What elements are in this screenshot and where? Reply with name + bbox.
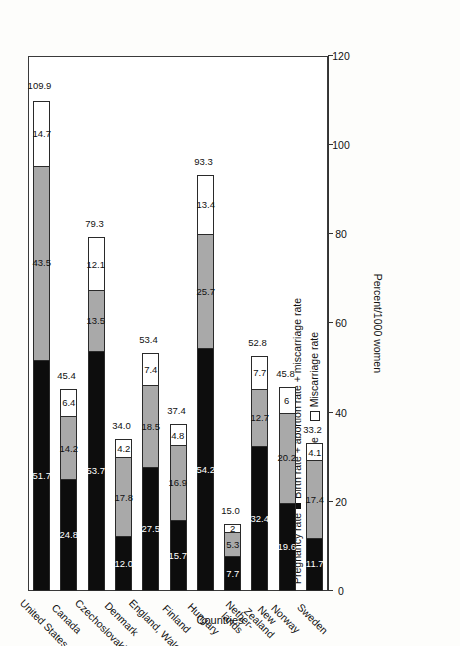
- category-label: Denmark: [116, 594, 127, 644]
- bar-segment-miscarriage[interactable]: 4.2: [115, 439, 132, 458]
- bar-total-label: 45.4: [61, 366, 72, 385]
- bar-total-label: 52.8: [252, 333, 263, 352]
- axis-tick-label: 0: [335, 579, 347, 603]
- bar-value-label: 18.5: [141, 422, 160, 432]
- bar-value-label: 4.2: [117, 444, 130, 454]
- bar-row[interactable]: 11.717.44.1: [306, 443, 323, 591]
- bar-value-label: 13.5: [87, 316, 106, 326]
- bar-row[interactable]: 53.713.512.1: [88, 237, 105, 591]
- bar-total-label: 34.0: [116, 417, 127, 436]
- bar-row[interactable]: 19.620.26: [279, 387, 296, 591]
- bar-value-label: 7.7: [253, 368, 266, 378]
- bar-value-label: 14.7: [32, 129, 51, 139]
- bar-segment-birth[interactable]: 53.7: [88, 352, 105, 591]
- bar-value-label: 5.3: [226, 540, 239, 550]
- bar-value-label: 4.1: [308, 447, 321, 457]
- bar-segment-abortion[interactable]: 5.3: [224, 533, 241, 557]
- bar-value-label: 53.7: [87, 466, 106, 476]
- bar-segment-miscarriage[interactable]: 13.4: [197, 175, 214, 235]
- bar-value-label: 12.0: [114, 559, 133, 569]
- bar-segment-miscarriage[interactable]: 4.1: [306, 443, 323, 461]
- bar-value-label: 2: [230, 524, 235, 534]
- bar-value-label: 6.4: [62, 398, 75, 408]
- bar-segment-birth[interactable]: 32.4: [251, 447, 268, 591]
- bar-segment-miscarriage[interactable]: 7.4: [142, 353, 159, 386]
- bar-value-label: 12.7: [251, 413, 270, 423]
- category-label: United States: [34, 594, 45, 644]
- bar-segment-miscarriage[interactable]: 7.7: [251, 356, 268, 390]
- value-axis: 120100806040200: [328, 56, 329, 591]
- category-label: Czechoslovakia: [89, 594, 100, 644]
- bar-segment-birth[interactable]: 19.6: [279, 504, 296, 591]
- bar-value-label: 27.5: [141, 524, 160, 534]
- bar-segment-abortion[interactable]: 25.7: [197, 235, 214, 350]
- bar-total-label: 37.4: [171, 402, 182, 421]
- bar-segment-miscarriage[interactable]: 12.1: [88, 237, 105, 291]
- bar-row[interactable]: 12.017.84.2: [115, 439, 132, 591]
- bar-segment-birth[interactable]: 27.5: [142, 468, 159, 591]
- axis-tick-label: 100: [335, 133, 347, 157]
- bar-segment-abortion[interactable]: 13.5: [88, 291, 105, 351]
- bar-segment-miscarriage[interactable]: 6: [279, 387, 296, 414]
- bar-segment-abortion[interactable]: 12.7: [251, 390, 268, 447]
- category-label: Finland: [171, 594, 182, 644]
- bar-segment-abortion[interactable]: 16.9: [170, 446, 187, 521]
- axis-tick-label: 120: [335, 44, 347, 68]
- bar-total-label: 53.4: [143, 330, 154, 349]
- bar-value-label: 51.7: [32, 471, 51, 481]
- axis-tick-label: 40: [335, 401, 347, 425]
- bar-value-label: 14.2: [60, 444, 79, 454]
- category-label: Hungary: [198, 594, 209, 644]
- axis-tick-label: 60: [335, 312, 347, 336]
- bar-series-area: 51.743.514.7109.924.814.26.445.453.713.5…: [28, 56, 328, 591]
- bar-segment-birth[interactable]: 24.8: [60, 480, 77, 591]
- bar-value-label: 6: [284, 395, 289, 405]
- bar-value-label: 11.7: [305, 560, 323, 570]
- category-label: Canada: [61, 594, 72, 644]
- axis-tick-label: 80: [335, 222, 347, 246]
- bar-total-label: 109.9: [34, 73, 45, 97]
- bar-segment-abortion[interactable]: 14.2: [60, 417, 77, 480]
- category-label: Norway: [280, 594, 291, 644]
- bar-segment-miscarriage[interactable]: 6.4: [60, 389, 77, 418]
- bar-value-label: 32.4: [251, 514, 270, 524]
- chart-canvas: Pregnancy rate Birth rate + abortion rat…: [0, 0, 460, 646]
- bar-segment-birth[interactable]: 54.2: [197, 349, 214, 591]
- bar-row[interactable]: 54.225.713.4: [197, 175, 214, 591]
- bar-total-label: 33.2: [307, 420, 318, 439]
- bar-row[interactable]: 51.743.514.7: [33, 101, 50, 591]
- bar-segment-birth[interactable]: 12.0: [115, 538, 132, 592]
- bar-segment-miscarriage[interactable]: 14.7: [33, 101, 50, 167]
- value-axis-line: [328, 56, 329, 591]
- bar-segment-abortion[interactable]: 20.2: [279, 414, 296, 504]
- bar-value-label: 20.2: [278, 453, 297, 463]
- bar-segment-birth[interactable]: 11.7: [306, 539, 323, 591]
- bar-total-label: 79.3: [89, 215, 100, 234]
- bar-value-label: 25.7: [196, 287, 215, 297]
- bar-value-label: 15.7: [169, 551, 188, 561]
- bar-row[interactable]: 7.75.32: [224, 524, 241, 591]
- bar-row[interactable]: 24.814.26.4: [60, 389, 77, 591]
- axis-tick-label: 20: [335, 490, 347, 514]
- bar-row[interactable]: 32.412.77.7: [251, 356, 268, 591]
- bar-row[interactable]: 27.518.57.4: [142, 353, 159, 591]
- bar-row[interactable]: 15.716.94.8: [170, 424, 187, 591]
- bar-segment-birth[interactable]: 51.7: [33, 361, 50, 591]
- category-label: England, Wales: [143, 594, 154, 644]
- bar-value-label: 7.4: [144, 365, 157, 375]
- bar-value-label: 4.8: [171, 430, 184, 440]
- bar-value-label: 13.4: [196, 200, 215, 210]
- value-axis-title: Percent/1000 women: [372, 56, 384, 591]
- bar-total-label: 45.8: [280, 364, 291, 383]
- bar-segment-abortion[interactable]: 18.5: [142, 386, 159, 468]
- bar-value-label: 19.6: [278, 542, 297, 552]
- bar-value-label: 54.2: [196, 465, 215, 475]
- bar-segment-abortion[interactable]: 43.5: [33, 167, 50, 361]
- bar-segment-miscarriage[interactable]: 2: [224, 524, 241, 533]
- bar-segment-birth[interactable]: 7.7: [224, 557, 241, 591]
- bar-segment-abortion[interactable]: 17.4: [306, 461, 323, 539]
- bar-value-label: 16.9: [169, 478, 188, 488]
- bar-segment-miscarriage[interactable]: 4.8: [170, 424, 187, 445]
- bar-segment-birth[interactable]: 15.7: [170, 521, 187, 591]
- bar-segment-abortion[interactable]: 17.8: [115, 458, 132, 537]
